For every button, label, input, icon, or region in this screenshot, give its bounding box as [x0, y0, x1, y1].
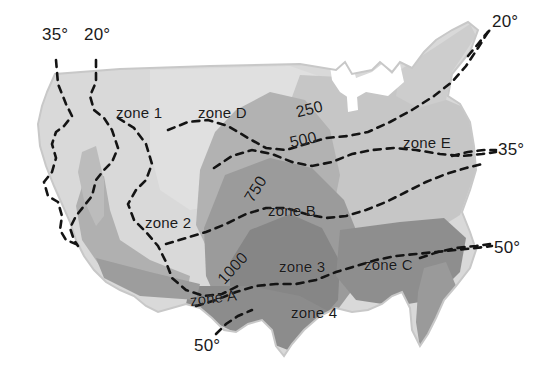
zone-label-2: zone 2	[145, 214, 191, 231]
degree-label-50-right: 50°	[494, 238, 520, 258]
degree-label-20-topleft: 20°	[84, 25, 110, 45]
zone-label-3: zone 3	[279, 258, 325, 275]
degree-label-20-topright: 20°	[492, 12, 518, 32]
zone-label-D: zone D	[198, 104, 247, 121]
zone-label-1: zone 1	[116, 104, 162, 121]
zone-label-4: zone 4	[291, 304, 337, 321]
zone-label-C: zone C	[364, 256, 413, 273]
degree-label-35-topleft: 35°	[42, 25, 68, 45]
degree-label-50-bottom: 50°	[194, 336, 220, 356]
map-figure: 35° 20° 20° 35° 50° 50° 250 500 750 1000…	[0, 0, 547, 383]
lake-michigan-cutout	[346, 82, 358, 112]
us-map-graphic	[0, 0, 547, 383]
degree-label-35-right: 35°	[498, 140, 524, 160]
zone-label-E: zone E	[403, 134, 451, 151]
zone-label-B: zone B	[268, 202, 316, 219]
